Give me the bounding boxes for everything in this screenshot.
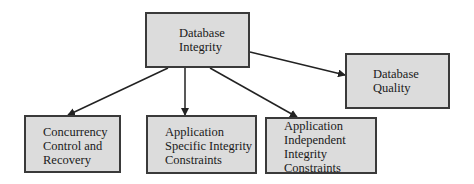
node-label: Application Independent Integrity Constr…	[284, 119, 346, 175]
node-label: Database Integrity	[179, 26, 225, 54]
node-label: Concurrency Control and Recovery	[43, 125, 108, 167]
node-concurrency-control: Concurrency Control and Recovery	[24, 115, 121, 173]
edge-integrity-to-concurrency	[68, 68, 168, 115]
node-database-integrity: Database Integrity	[145, 12, 250, 68]
node-label: Application Specific Integrity Constrain…	[165, 125, 252, 167]
diagram-canvas: Database Integrity Database Quality Conc…	[0, 0, 474, 184]
node-application-specific: Application Specific Integrity Constrain…	[146, 115, 257, 174]
node-database-quality: Database Quality	[345, 53, 450, 109]
edge-integrity-to-app-independent	[210, 68, 297, 117]
edge-integrity-to-quality	[250, 52, 345, 75]
node-application-independent: Application Independent Integrity Constr…	[265, 117, 377, 174]
node-label: Database Quality	[373, 67, 419, 95]
